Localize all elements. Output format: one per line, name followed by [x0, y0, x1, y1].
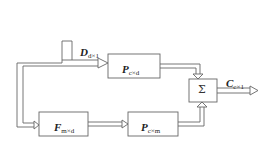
input-symbol: D	[80, 46, 88, 58]
block-p_cm-subscript: c×m	[148, 127, 161, 135]
arrow-head-output	[250, 86, 258, 95]
arrow-head-sigma-bottom	[197, 102, 207, 107]
block-p_cm-symbol: P	[141, 121, 148, 133]
block-f_md-subscript: m×d	[61, 127, 74, 135]
block-p_cd-symbol: P	[122, 63, 129, 75]
block-p_cd-subscript: c×d	[129, 69, 140, 77]
output-label: Cc×1	[226, 73, 244, 91]
input-subscript: d×1	[88, 52, 99, 60]
block-p_cd-label: Pc×d	[122, 59, 139, 77]
arrow-head-p_cd	[98, 58, 108, 68]
block-f_md-label: Fm×d	[54, 117, 74, 135]
arrow-head-f	[34, 121, 39, 129]
arrow-head-p_cm	[122, 120, 128, 128]
output-subscript: c×1	[233, 83, 244, 91]
input-label: Dd×1	[80, 42, 99, 60]
block-p_cm-label: Pc×m	[141, 117, 160, 135]
summer-symbol: Σ	[198, 83, 206, 96]
arrow-head-sigma-top	[193, 74, 203, 79]
